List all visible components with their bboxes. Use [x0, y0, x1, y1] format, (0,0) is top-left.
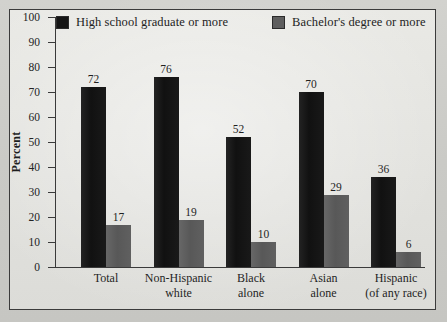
x-axis-label-line: Hispanic — [346, 271, 446, 286]
y-tick-label-50: 50 — [6, 136, 40, 148]
bar-high-school: 52 — [226, 137, 251, 267]
y-tick-10 — [48, 242, 55, 243]
y-tick-40 — [48, 167, 55, 168]
bar-bachelors: 6 — [396, 252, 421, 267]
y-tick-20 — [48, 217, 55, 218]
bar-value-label: 6 — [406, 238, 412, 250]
y-tick-100 — [48, 17, 55, 18]
figure-container: High school graduate or more Bachelor's … — [0, 0, 447, 322]
bar-group: 7217 — [71, 17, 141, 267]
y-tick-label-70: 70 — [6, 86, 40, 98]
y-tick-label-40: 40 — [6, 161, 40, 173]
bar-group: 5210 — [216, 17, 286, 267]
x-axis-labels: TotalNon-HispanicwhiteBlackaloneAsianalo… — [56, 271, 425, 307]
bar-value-label: 29 — [330, 181, 342, 193]
y-tick-label-20: 20 — [6, 211, 40, 223]
y-tick-50 — [48, 142, 55, 143]
bar-high-school: 76 — [154, 77, 179, 267]
bar-groups: 7217761952107029366 — [56, 17, 425, 267]
y-tick-label-0: 0 — [6, 261, 40, 273]
y-tick-60 — [48, 117, 55, 118]
bar-high-school: 70 — [299, 92, 324, 267]
bar-group: 7619 — [144, 17, 214, 267]
bar-value-label: 19 — [185, 206, 197, 218]
bar-value-label: 17 — [113, 211, 125, 223]
bar-value-label: 52 — [233, 123, 245, 135]
x-axis-label-line: (of any race) — [346, 286, 446, 301]
bar-group: 366 — [361, 17, 431, 267]
bar-high-school: 72 — [81, 87, 106, 267]
y-axis-title: Percent — [9, 112, 24, 192]
y-tick-label-30: 30 — [6, 186, 40, 198]
y-tick-label-100: 100 — [6, 11, 40, 23]
bar-bachelors: 17 — [106, 225, 131, 268]
bar-group: 7029 — [289, 17, 359, 267]
bar-high-school: 36 — [371, 177, 396, 267]
y-tick-80 — [48, 67, 55, 68]
y-tick-label-90: 90 — [6, 36, 40, 48]
bar-bachelors: 10 — [251, 242, 276, 267]
y-tick-30 — [48, 192, 55, 193]
y-tick-label-10: 10 — [6, 236, 40, 248]
bar-value-label: 76 — [160, 63, 172, 75]
y-tick-label-60: 60 — [6, 111, 40, 123]
bar-value-label: 36 — [378, 163, 390, 175]
bar-value-label: 70 — [305, 78, 317, 90]
plot-area: 0102030405060708090100 72177619521070293… — [46, 17, 425, 269]
x-axis-label: Hispanic(of any race) — [346, 271, 446, 300]
y-tick-label-80: 80 — [6, 61, 40, 73]
x-axis-line — [55, 267, 425, 268]
bar-value-label: 10 — [258, 228, 270, 240]
bar-bachelors: 29 — [324, 195, 349, 268]
bar-bachelors: 19 — [179, 220, 204, 268]
bar-value-label: 72 — [88, 73, 100, 85]
y-tick-90 — [48, 42, 55, 43]
y-tick-70 — [48, 92, 55, 93]
y-tick-0 — [48, 267, 55, 268]
